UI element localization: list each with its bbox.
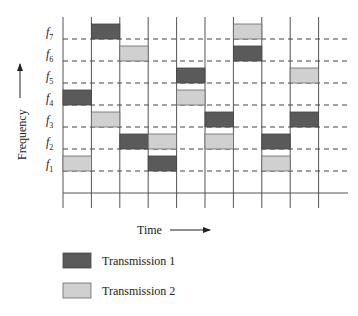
frequency-label-f4: f4 <box>46 91 53 108</box>
frequency-label-f5: f5 <box>46 69 53 86</box>
transmission-2-block <box>290 68 318 83</box>
transmission-1-block <box>148 156 176 171</box>
transmission-1-block <box>290 112 318 127</box>
transmission-1-block <box>63 90 91 105</box>
frequency-label-f2: f2 <box>46 135 53 152</box>
legend-label-transmission-2: Transmission 2 <box>102 284 175 298</box>
transmission-1-block <box>120 134 148 149</box>
legend: Transmission 1 Transmission 2 <box>63 253 175 298</box>
transmission-2-block <box>205 134 233 149</box>
transmission-1-block <box>91 24 119 39</box>
transmission-2-block <box>120 46 148 61</box>
transmission-2-block <box>262 156 290 171</box>
legend-swatch-transmission-1 <box>63 253 91 268</box>
frequency-label-f6: f6 <box>46 47 53 64</box>
frequency-label-f7: f7 <box>46 25 53 42</box>
transmission-1-block <box>262 134 290 149</box>
legend-item-transmission-2: Transmission 2 <box>63 283 175 298</box>
frequency-hopping-diagram: f1f2f3f4f5f6f7 Frequency Time Transmissi… <box>0 0 358 316</box>
transmission-1-block <box>177 68 205 83</box>
legend-item-transmission-1: Transmission 1 <box>63 253 175 268</box>
transmission-2-block <box>63 156 91 171</box>
transmission-2-block <box>148 134 176 149</box>
legend-label-transmission-1: Transmission 1 <box>102 254 175 268</box>
y-axis-label: Frequency <box>15 109 29 160</box>
transmission-2-block <box>177 90 205 105</box>
frequency-label-f3: f3 <box>46 113 53 130</box>
transmission-1-block <box>205 112 233 127</box>
transmission-2-block <box>233 24 261 39</box>
legend-swatch-transmission-2 <box>63 283 91 298</box>
transmission-1-block <box>233 46 261 61</box>
frequency-labels: f1f2f3f4f5f6f7 <box>46 25 53 174</box>
transmission-2-block <box>91 112 119 127</box>
frequency-label-f1: f1 <box>46 157 53 174</box>
x-axis-label: Time <box>137 223 162 237</box>
